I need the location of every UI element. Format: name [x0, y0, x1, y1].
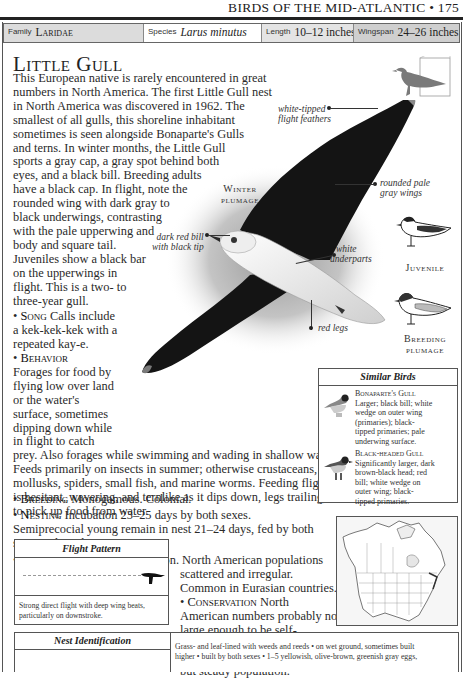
leader-line [208, 235, 230, 236]
annotation-line: flight feathers [278, 114, 331, 124]
family-label: Family [8, 27, 32, 36]
similar-bird-line: Larger; black bill; white [355, 399, 457, 409]
family-cell: Family Laridae [4, 24, 144, 42]
breeding-label-line: Breeding [392, 333, 458, 344]
header-rule [0, 17, 463, 20]
flight-pattern-caption: Strong direct flight with deep wing beat… [19, 601, 145, 620]
population-line: Common in Eurasian countries. [180, 582, 335, 596]
similar-bird-line: Significantly larger, dark [355, 459, 457, 469]
family-value: Laridae [36, 26, 73, 38]
flight-pattern-box: Flight Pattern Strong direct flight with… [14, 539, 169, 625]
nesting-line: Incubation 23–25 days by both sexes. [65, 508, 252, 522]
breeding-plumage-illustration [393, 288, 453, 330]
similar-bird-name: Black-headed Gull [355, 449, 457, 459]
annotation-line: gray wings [380, 188, 430, 198]
conservation-line: North [260, 595, 289, 609]
nest-identification-text: Grass- and leaf-lined with weeds and ree… [175, 642, 417, 661]
similar-bird-line: bill; white wedge on [355, 478, 457, 488]
annotation-rounded-wings: rounded pale gray wings [380, 178, 430, 198]
wingspan-cell: Wingspan 24–26 inches [354, 24, 459, 42]
intro-line: numbers in North America. The first Litt… [13, 86, 433, 100]
song-heading: Song [20, 309, 46, 323]
intro-line: This European native is rarely encounter… [13, 72, 433, 86]
annotation-line: dark red bill [152, 232, 204, 242]
nest-identification-box: Nest Identification Grass- and leaf-line… [14, 632, 459, 672]
behavior-heading: Behavior [20, 351, 68, 365]
conservation-heading: Conservation [187, 595, 256, 609]
leader-dot [309, 326, 313, 330]
juvenile-label: Juvenile [392, 262, 458, 273]
annotation-legs: red legs [318, 323, 348, 333]
wingspan-value: 24–26 inches [398, 26, 459, 38]
leader-line [330, 108, 378, 109]
flying-bird-icon [139, 567, 165, 589]
leader-line [335, 184, 375, 185]
annotation-line: underparts [330, 254, 372, 264]
similar-birds-heading: Similar Birds [319, 369, 457, 386]
breeding-plumage-label: Breeding plumage [392, 333, 458, 355]
length-value: 10–12 inches [294, 26, 354, 38]
nest-line: Grass- and leaf-lined with weeds and ree… [175, 642, 417, 652]
annotation-white-tipped: white-tipped flight feathers [278, 104, 331, 124]
juvenile-illustration [395, 212, 453, 252]
nest-identification-heading: Nest Identification [15, 633, 170, 650]
annotation-line: white [330, 244, 372, 254]
breeding-text: Monogamous. Colonial. [71, 492, 191, 506]
breeding-label-line: plumage [392, 344, 458, 355]
annotation-underparts: white underparts [330, 244, 372, 264]
annotation-bill: dark red bill with black tip [152, 232, 204, 252]
similar-bird-line: outer wing; black- [355, 487, 457, 497]
species-info-bar: Family Laridae Species Larus minutus Len… [3, 23, 460, 43]
similar-bird-line: (primaries); black- [355, 418, 457, 428]
species-cell: Species Larus minutus [144, 24, 262, 42]
breeding-heading: Breeding [20, 492, 68, 506]
flight-box-divider [15, 595, 168, 596]
similar-bird-name: Bonaparte's Gull [355, 389, 457, 399]
nest-line: higher • built by both sexes • 1–5 yello… [175, 652, 417, 662]
population-line: scattered and irregular. [180, 568, 335, 582]
plumage-label-line: Winter [205, 183, 275, 194]
similar-bird-line: brown-black head; red [355, 468, 457, 478]
bonapartes-gull-icon [322, 391, 352, 421]
similar-bird-line: tipped primaries. [355, 497, 457, 507]
similar-bird-item: Black-headed Gull Significantly larger, … [355, 449, 457, 507]
annotation-line: white-tipped [278, 104, 331, 114]
flight-pattern-heading: Flight Pattern [15, 540, 168, 558]
wingspan-label: Wingspan [358, 27, 394, 36]
length-label: Length [266, 27, 290, 36]
similar-bird-line: tipped primaries; pale [355, 427, 457, 437]
similar-bird-item: Bonaparte's Gull Larger; black bill; whi… [355, 389, 457, 447]
length-cell: Length 10–12 inches [262, 24, 354, 42]
winter-plumage-label: Winter plumage [205, 183, 275, 205]
species-label: Species [148, 27, 176, 36]
similar-bird-line: underwing surface. [355, 437, 457, 447]
nesting-heading: Nesting [20, 508, 61, 522]
black-headed-gull-icon [322, 453, 354, 483]
running-head: BIRDS OF THE MID-ATLANTIC • 175 [228, 0, 459, 16]
caption-line: Strong direct flight with deep wing beat… [19, 601, 145, 611]
annotation-line: rounded pale [380, 178, 430, 188]
nest-id-heading-cell: Nest Identification [15, 633, 171, 672]
annotation-line: with black tip [152, 242, 204, 252]
song-line: Calls include [50, 309, 115, 323]
conservation-line: American numbers probably not [180, 610, 335, 624]
species-value: Larus minutus [180, 26, 246, 38]
similar-birds-box: Similar Birds Bonaparte's Gull Larger; b… [318, 368, 458, 503]
caption-line: particularly on downstroke. [19, 611, 145, 621]
range-map [336, 516, 458, 626]
plumage-label-line: plumage [205, 194, 275, 205]
similar-bird-line: wedge on outer wing [355, 408, 457, 418]
